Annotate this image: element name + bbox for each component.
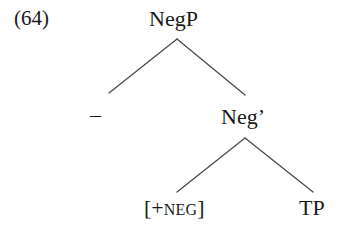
node-neg-bar: Neg’ [221,106,265,128]
branch-negp-to-specifier [109,39,177,93]
node-tp: TP [299,197,325,219]
branch-negbar-to-head [177,138,245,192]
node-neg-feature: [+NEG] [144,197,205,219]
feature-bracket-close: ] [197,195,204,220]
branch-negbar-to-complement [245,138,313,192]
node-negp: NegP [149,8,198,30]
example-number: (64) [14,8,49,29]
node-empty-specifier: – [90,104,101,126]
feature-plus-sign: + [151,195,163,220]
figure-canvas: (64) NegP – Neg’ [+NEG] TP [0,0,350,239]
feature-label-neg: NEG [164,201,197,218]
branch-negp-to-negbar [177,39,245,95]
